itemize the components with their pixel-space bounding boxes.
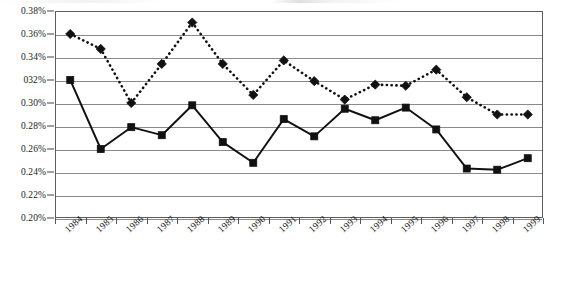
y-axis: 0.38%0.36%0.34%032%0.30%0.28%0.26%0.24%0… <box>0 11 52 218</box>
gridline <box>56 58 542 59</box>
y-tick-label: 0.38% <box>21 6 46 16</box>
y-tick-label: 032% <box>23 75 46 85</box>
gridline <box>56 35 542 36</box>
y-tick-label: 0.30% <box>21 98 46 108</box>
y-tick-label: 0.36% <box>21 29 46 39</box>
gridline <box>56 196 542 197</box>
y-tick-label: 0.24% <box>21 167 46 177</box>
y-tick-label: 0.26% <box>21 144 46 154</box>
y-tick-mark <box>47 103 54 104</box>
y-tick-mark <box>47 34 54 35</box>
gridline <box>56 173 542 174</box>
y-tick-mark <box>47 80 54 81</box>
plot-area <box>55 11 543 218</box>
y-tick-label: 0.28% <box>21 121 46 131</box>
gridlines <box>56 12 542 217</box>
y-tick-mark <box>47 149 54 150</box>
chart-screenshot: 0.38%0.36%0.34%032%0.30%0.28%0.26%0.24%0… <box>0 0 570 283</box>
y-tick-mark <box>47 126 54 127</box>
gridline <box>56 81 542 82</box>
gridline <box>56 150 542 151</box>
y-tick-mark <box>47 57 54 58</box>
y-tick-label: 0.20% <box>21 213 46 223</box>
y-tick-mark <box>47 11 54 12</box>
y-tick-mark <box>47 172 54 173</box>
y-tick-label: 0.34% <box>21 52 46 62</box>
gridline <box>56 127 542 128</box>
y-tick-mark <box>47 218 54 219</box>
y-tick-mark <box>47 195 54 196</box>
y-tick-label: 0.22% <box>21 190 46 200</box>
gridline <box>56 104 542 105</box>
scan-artifact <box>0 0 570 3</box>
x-axis-labels: 1984198519861987198819891990199119921993… <box>55 224 555 269</box>
